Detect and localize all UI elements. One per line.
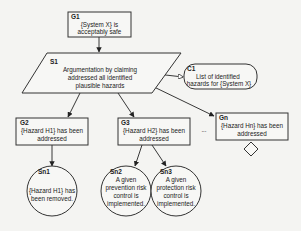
node-id: G1 (71, 13, 80, 20)
edge-s1-g3 (118, 93, 134, 117)
node-text-line: plausible hazards (75, 82, 124, 90)
goal-g2[interactable]: G2 {Hazard H1} has been addressed (16, 118, 88, 145)
solution-sn1[interactable]: Sn1 {Hazard H1} has been removed. (27, 166, 77, 216)
undeveloped-diamond-icon (244, 142, 258, 156)
node-text-line: addressed (237, 130, 267, 137)
node-text-line: implemented. (157, 200, 195, 208)
node-text-line: protection risk (156, 184, 196, 192)
goal-g1[interactable]: G1 {System X} is acceptably safe (68, 12, 131, 37)
node-text-line: control is (113, 192, 138, 199)
node-id: Sn1 (38, 168, 50, 175)
node-text-line: {Hazard H1} has (29, 187, 75, 195)
node-text-line: addressed (37, 135, 67, 142)
node-text-line: {Hazard H1} has been (21, 127, 83, 135)
node-text-line: addressed (139, 135, 169, 142)
gsn-diagram: G1 {System X} is acceptably safe S1 Argu… (0, 0, 301, 231)
node-id: Sn3 (160, 168, 172, 175)
ellipsis-more-goals: ... (201, 126, 206, 133)
goal-gn[interactable]: Gn {Hazard Hn} has been addressed (216, 113, 288, 156)
node-id: C1 (187, 65, 196, 72)
node-text-line: {Hazard H2} has been (123, 127, 185, 135)
edge-g3-sn3 (152, 145, 166, 166)
node-text-line: List of identified (196, 73, 240, 80)
context-c1[interactable]: C1 List of identified hazards for {Syste… (184, 64, 257, 89)
node-text-line: {Hazard Hn} has been (221, 122, 283, 130)
node-id: G2 (20, 119, 29, 126)
node-text-line: acceptably safe (78, 28, 122, 36)
node-text-line: A given (166, 176, 187, 184)
node-text-line: Argumentation by claiming (63, 66, 138, 74)
goal-g3[interactable]: G3 {Hazard H2} has been addressed (118, 118, 190, 145)
solution-sn2[interactable]: Sn2 A given prevention risk control is i… (101, 166, 151, 216)
node-text-line: been removed. (31, 195, 73, 202)
node-id: Gn (219, 114, 228, 121)
node-text-line: A given (116, 176, 137, 184)
node-text-line: implemented. (107, 200, 145, 208)
node-id: S1 (50, 58, 58, 65)
strategy-s1[interactable]: S1 Argumentation by claiming addressed a… (22, 53, 181, 93)
node-text-line: prevention risk (106, 184, 148, 192)
node-text-line: addressed all identified (68, 74, 133, 81)
node-text-line: hazards for {System X} (187, 80, 251, 88)
node-text-line: control is (163, 192, 188, 199)
edge-s1-gn (152, 86, 214, 116)
node-id: G3 (121, 119, 130, 126)
node-id: Sn2 (110, 168, 122, 175)
solution-sn3[interactable]: Sn3 A given protection risk control is i… (151, 166, 201, 216)
edge-s1-g2 (68, 93, 80, 117)
edge-g3-sn2 (135, 145, 142, 166)
